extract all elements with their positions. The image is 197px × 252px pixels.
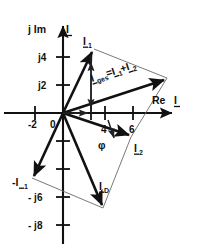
- vector-negative-i1: [34, 113, 63, 176]
- label-negative-i1: -I: [12, 176, 18, 188]
- construction-i2-to-iges: [131, 78, 167, 137]
- tick-label-x6: 6: [129, 124, 135, 135]
- tick-label-xm2: -2: [28, 119, 37, 130]
- label-i1-subscript: 1: [88, 42, 92, 49]
- imaginary-axis-label: j Im: [27, 23, 46, 35]
- label-i2-group: I 2: [134, 142, 143, 156]
- label-i2: I: [134, 142, 137, 154]
- label-iges-group: I ges =I 1 +I 2: [89, 58, 138, 87]
- label-phi: φ: [98, 139, 106, 151]
- imaginary-axis-unit-label: I: [66, 23, 69, 35]
- vector-i2: [63, 113, 129, 135]
- phasor-diagram-canvas: j Im I Re I 0 j4 j2 - j6 - j8 -2 4 6 I 1: [0, 0, 197, 252]
- label-id: I: [99, 180, 102, 192]
- tick-label-jm8: - j8: [28, 220, 43, 231]
- tick-label-j2: j2: [37, 80, 47, 91]
- real-axis-label: Re: [152, 94, 166, 106]
- real-axis-unit-label: I: [174, 94, 177, 106]
- vector-labels: I 1 I 2 I D -I 1 φ: [12, 35, 143, 194]
- label-iges-main: I: [89, 72, 96, 84]
- tick-label-jm6: - j6: [28, 192, 43, 203]
- label-i1-group: I 1: [83, 35, 92, 49]
- label-i2-subscript: 2: [139, 149, 143, 156]
- label-negative-i1-group: -I 1: [12, 176, 28, 190]
- label-negative-i1-subscript: 1: [24, 183, 28, 190]
- tick-label-x4: 4: [101, 124, 107, 135]
- phasor-diagram-figure: j Im I Re I 0 j4 j2 - j6 - j8 -2 4 6 I 1: [0, 0, 197, 252]
- construction-i2-to-id: [103, 137, 131, 208]
- vector-id: [63, 113, 102, 205]
- label-i1: I: [83, 35, 86, 47]
- tick-labels: j4 j2 - j6 - j8 -2 4 6: [28, 52, 135, 231]
- label-id-group: I D: [99, 180, 109, 194]
- origin-label: 0: [50, 119, 56, 130]
- tick-label-j4: j4: [37, 52, 47, 63]
- label-id-subscript: D: [104, 187, 109, 194]
